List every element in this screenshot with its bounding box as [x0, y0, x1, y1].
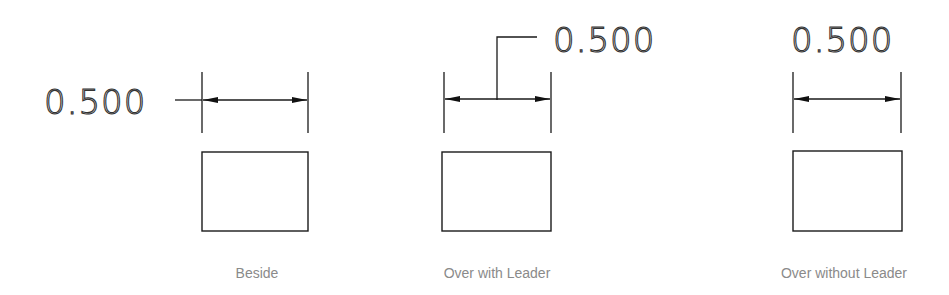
- panel-over-with-leader: 0.500: [442, 20, 655, 231]
- dimension-text-beside: 0.500: [44, 82, 146, 122]
- dimension-text-over-with-leader: 0.500: [553, 20, 655, 60]
- dimension-text-over-without-leader: 0.500: [791, 20, 893, 60]
- measured-box: [202, 152, 308, 231]
- leader-line: [497, 37, 537, 100]
- caption-over-without-leader: Over without Leader: [781, 265, 907, 281]
- panel-beside: 0.500: [44, 72, 308, 231]
- caption-beside: Beside: [236, 265, 279, 281]
- panel-over-without-leader: 0.500: [791, 20, 902, 231]
- measured-box: [442, 152, 551, 231]
- caption-over-with-leader: Over with Leader: [444, 265, 551, 281]
- measured-box: [793, 151, 902, 231]
- dimension-text-placement-diagram: 0.500 0.500 0.500: [0, 0, 949, 295]
